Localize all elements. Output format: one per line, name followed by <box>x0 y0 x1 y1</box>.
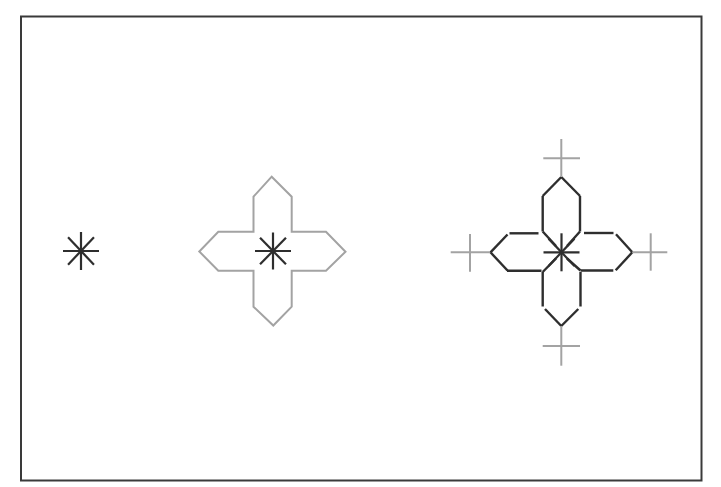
cross-top-icon <box>543 139 580 177</box>
cross-left-icon <box>451 234 490 272</box>
point-with-neighborhood-figure <box>199 177 345 326</box>
neighborhood-edge <box>491 252 508 270</box>
cross-bottom-icon <box>543 326 580 366</box>
diagram-frame <box>21 17 702 481</box>
asterisk-icon <box>255 233 291 270</box>
neighborhood-edge <box>616 234 632 252</box>
diagram-canvas <box>0 0 721 487</box>
cross-right-icon <box>632 233 667 270</box>
asterisk-icon <box>63 232 99 270</box>
diagram-svg <box>0 0 721 487</box>
neighborhood-edge <box>616 252 633 270</box>
neighborhood-edge <box>561 309 578 326</box>
neighborhood-edge <box>543 177 562 196</box>
asterisk-icon <box>544 233 580 271</box>
point-with-neighborhood-and-crosses-figure <box>451 139 668 366</box>
neighborhood-edge <box>491 235 508 253</box>
neighborhood-edge <box>545 309 561 326</box>
neighborhood-edge <box>561 177 580 196</box>
single-point-asterisk-icon <box>63 232 99 270</box>
